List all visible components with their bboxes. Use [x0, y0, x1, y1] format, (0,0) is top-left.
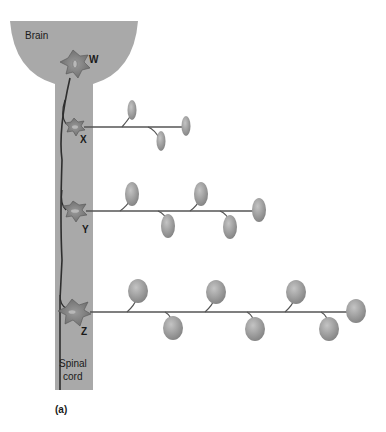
label-neuron-z: Z [81, 326, 87, 337]
label-brain: Brain [25, 30, 48, 41]
label-neuron-x: X [80, 134, 87, 145]
label-neuron-w: W [89, 54, 99, 65]
panel-label: (a) [55, 404, 67, 415]
label-cord: cord [63, 371, 82, 382]
motor-unit-y [63, 182, 266, 239]
motor-unit-diagram: W Brain X Y [0, 0, 386, 432]
label-neuron-y: Y [82, 224, 89, 235]
motor-unit-z [58, 279, 366, 341]
label-spinal: Spinal [59, 358, 87, 369]
